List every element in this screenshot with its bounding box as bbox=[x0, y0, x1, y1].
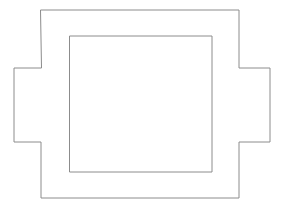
drawing-canvas bbox=[0, 0, 282, 211]
shape-drawing bbox=[0, 0, 282, 211]
inner-rectangle bbox=[70, 36, 212, 172]
